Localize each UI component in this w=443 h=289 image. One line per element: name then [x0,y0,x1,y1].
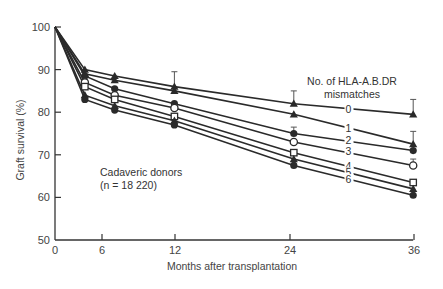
graft-survival-chart: 061224365060708090100 0123456 Months aft… [0,0,443,289]
series-label-3: 3 [346,145,352,157]
annotation-donors: Cadaveric donors [100,166,182,178]
y-tick-label: 70 [38,149,50,161]
filled-circle-marker-icon [290,130,297,137]
y-tick-label: 60 [38,191,50,203]
x-tick-label: 24 [284,244,296,256]
filled-circle-marker-icon [290,162,297,169]
open-square-marker-icon [112,96,118,102]
y-tick-label: 100 [32,21,50,33]
x-tick-label: 12 [169,244,181,256]
open-square-marker-icon [291,149,297,155]
x-tick-label: 36 [408,244,420,256]
series-label-1: 1 [346,122,352,134]
filled-circle-marker-icon [410,147,417,154]
x-tick-label: 0 [52,244,58,256]
open-circle-marker-icon [290,138,297,145]
filled-circle-marker-icon [81,96,88,103]
series-line-4 [55,27,413,182]
annotation-n: (n = 18 220) [100,179,157,191]
open-circle-marker-icon [171,104,178,111]
open-square-marker-icon [82,83,88,89]
legend-title-line1: No. of HLA-A.B.DR [307,75,397,87]
open-square-marker-icon [410,179,416,185]
series-line-0 [55,27,413,114]
filled-circle-marker-icon [111,106,118,113]
axes: 061224365060708090100 [32,21,420,256]
series-label-6: 6 [346,173,352,185]
open-circle-marker-icon [410,162,417,169]
filled-circle-marker-icon [171,121,178,128]
y-axis-title: Graft survival (%) [14,99,26,180]
filled-circle-marker-icon [410,192,417,199]
x-tick-label: 6 [99,244,105,256]
y-tick-label: 90 [38,64,50,76]
series-label-0: 0 [346,103,352,115]
y-tick-label: 50 [38,234,50,246]
series-labels: 0123456 [345,103,354,185]
y-tick-label: 80 [38,106,50,118]
x-axis-title: Months after transplantation [167,260,297,272]
legend-title-line2: mismatches [324,88,380,100]
